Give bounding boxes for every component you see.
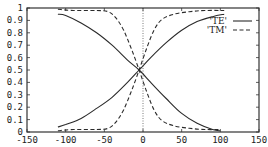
x-tick-label: 150 bbox=[251, 135, 267, 145]
te-decreasing-curve bbox=[58, 14, 220, 131]
y-tick-label: 0.9 bbox=[7, 15, 23, 25]
y-tick-label: 0.4 bbox=[7, 77, 23, 87]
x-tick-label: 100 bbox=[212, 135, 228, 145]
y-tick-label: 1 bbox=[18, 3, 23, 13]
y-tick-label: 0.7 bbox=[7, 40, 23, 50]
y-tick-label: 0.1 bbox=[7, 115, 23, 125]
transmission-chart: 00.10.20.30.40.50.60.70.80.91-150-100-50… bbox=[0, 0, 268, 147]
y-tick-label: 0.6 bbox=[7, 53, 23, 63]
series-layer bbox=[58, 9, 224, 131]
x-tick-label: 0 bbox=[140, 135, 145, 145]
legend-label-tm: 'TM' bbox=[207, 25, 227, 35]
tm-increasing-curve bbox=[58, 10, 224, 130]
legend: 'TE''TM' bbox=[207, 16, 252, 35]
y-tick-label: 0.3 bbox=[7, 90, 23, 100]
y-tick-label: 0.5 bbox=[7, 65, 23, 75]
x-tick-label: -50 bbox=[96, 135, 112, 145]
axes-layer: 00.10.20.30.40.50.60.70.80.91-150-100-50… bbox=[7, 3, 267, 145]
x-tick-label: -150 bbox=[16, 135, 38, 145]
te-increasing-curve bbox=[58, 14, 224, 127]
x-tick-label: -100 bbox=[55, 135, 77, 145]
x-tick-label: 50 bbox=[176, 135, 187, 145]
y-tick-label: 0.2 bbox=[7, 102, 23, 112]
y-tick-label: 0.8 bbox=[7, 28, 23, 38]
